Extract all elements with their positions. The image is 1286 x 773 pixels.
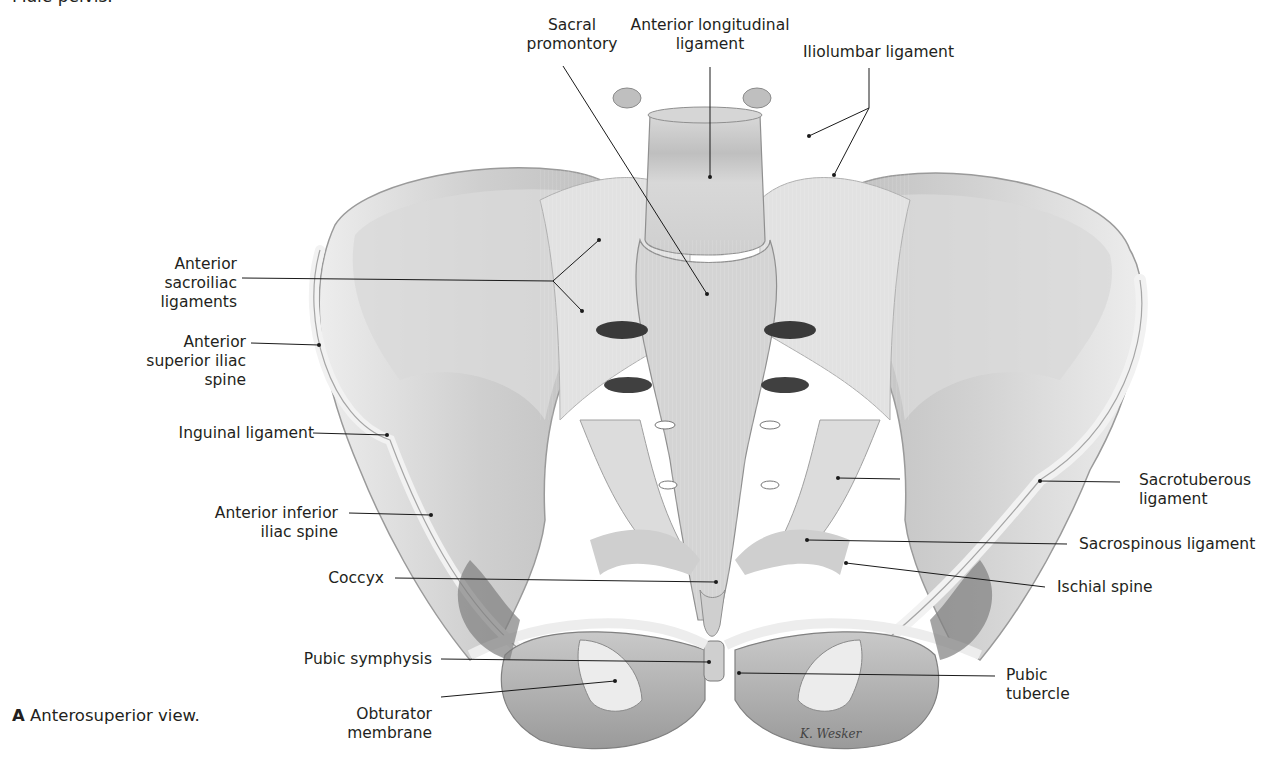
label-anterior-superior-iliac-spine: Anterior superior iliac spine [110, 333, 246, 390]
label-line: Coccyx [270, 569, 384, 588]
label-iliolumbar-ligament: Iliolumbar ligament [803, 43, 954, 62]
label-line: Obturator [300, 705, 432, 724]
label-line: membrane [300, 724, 432, 743]
view-caption: A Anterosuperior view. [12, 706, 200, 725]
label-line: promontory [516, 35, 628, 54]
pubis [470, 623, 980, 748]
label-line: Sacrotuberous [1139, 471, 1251, 490]
label-sacrotuberous-ligament: Sacrotuberous ligament [1139, 471, 1251, 509]
label-line: tubercle [1006, 685, 1070, 704]
label-line: Pubic symphysis [250, 650, 432, 669]
label-line: Sacrospinous ligament [1079, 535, 1255, 554]
label-line: Sacral [516, 16, 628, 35]
label-line: spine [110, 371, 246, 390]
label-line: iliac spine [160, 523, 338, 542]
label-line: ligament [1139, 490, 1251, 509]
label-pubic-tubercle: Pubic tubercle [1006, 666, 1070, 704]
label-obturator-membrane: Obturator membrane [300, 705, 432, 743]
label-line: Anterior longitudinal [620, 16, 800, 35]
view-letter: A [12, 706, 25, 725]
label-line: ligament [620, 35, 800, 54]
label-anterior-inferior-iliac-spine: Anterior inferior iliac spine [160, 504, 338, 542]
label-sacral-promontory: Sacral promontory [516, 16, 628, 54]
label-line: superior iliac [110, 352, 246, 371]
label-coccyx: Coccyx [270, 569, 384, 588]
label-anterior-sacroiliac-ligaments: Anterior sacroiliac ligaments [110, 255, 237, 312]
label-line: sacroiliac [110, 274, 237, 293]
label-pubic-symphysis: Pubic symphysis [250, 650, 432, 669]
view-caption-text: Anterosuperior view. [30, 706, 200, 725]
label-line: Inguinal ligament [120, 424, 314, 443]
label-line: Ischial spine [1057, 578, 1153, 597]
label-inguinal-ligament: Inguinal ligament [120, 424, 314, 443]
label-line: Pubic [1006, 666, 1070, 685]
label-sacrospinous-ligament: Sacrospinous ligament [1079, 535, 1255, 554]
label-ischial-spine: Ischial spine [1057, 578, 1153, 597]
label-line: Iliolumbar ligament [803, 43, 954, 62]
artist-signature: K. Wesker [799, 727, 863, 741]
label-line: Anterior [110, 255, 237, 274]
label-line: Anterior [110, 333, 246, 352]
label-line: Anterior inferior [160, 504, 338, 523]
label-line: ligaments [110, 293, 237, 312]
label-anterior-longitudinal-ligament: Anterior longitudinal ligament [620, 16, 800, 54]
